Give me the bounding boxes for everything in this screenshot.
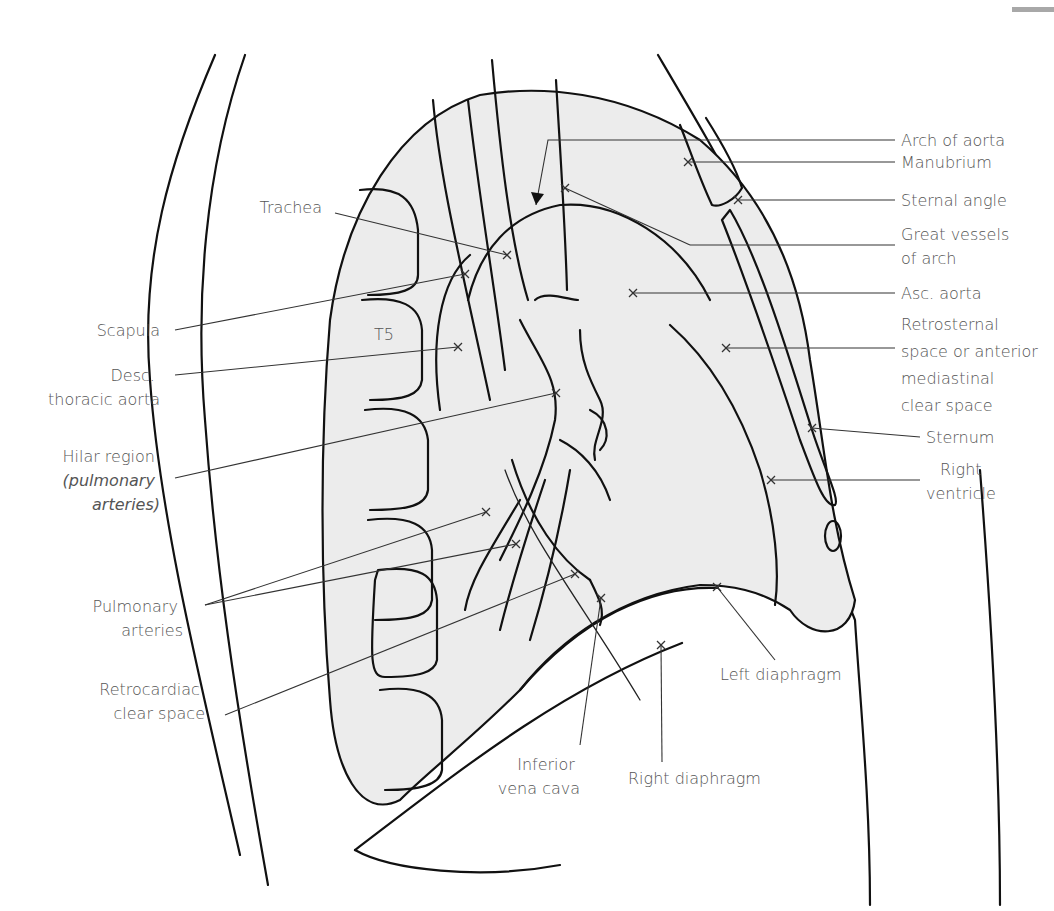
label-asc-aorta: Asc. aorta <box>901 284 982 303</box>
vertebra-label-t5: T5 <box>374 325 394 344</box>
label-pulmonary-arteries: Pulmonary arteries <box>93 597 183 640</box>
label-retrocardiac: Retrocardiac clear space <box>99 680 205 723</box>
label-great-vessels: Great vessels of arch <box>901 225 1014 268</box>
label-left-diaphragm: Left diaphragm <box>720 665 841 684</box>
label-arch-of-aorta: Arch of aorta <box>901 131 1005 150</box>
label-retrosternal: Retrosternal space or anterior mediastin… <box>901 315 1043 415</box>
label-sternal-angle: Sternal angle <box>901 191 1007 210</box>
label-manubrium: Manubrium <box>901 153 992 172</box>
label-desc-thoracic-aorta: Desc. thoracic aorta <box>48 366 160 409</box>
label-trachea: Trachea <box>260 198 322 217</box>
label-right-ventricle: Right ventricle <box>926 460 996 503</box>
label-scapula: Scapula <box>97 321 160 340</box>
back-outline-outer <box>148 55 240 855</box>
label-right-diaphragm: Right diaphragm <box>628 769 761 788</box>
label-inferior-vena-cava: Inferior vena cava <box>498 755 580 798</box>
lower-chest-curve <box>355 850 560 872</box>
label-hilar-region: Hilar region (pulmonary arteries) <box>62 447 160 514</box>
label-sternum: Sternum <box>926 428 994 447</box>
front-outline-lower <box>980 470 1000 905</box>
lateral-chest-diagram: T5 <box>0 0 1054 911</box>
